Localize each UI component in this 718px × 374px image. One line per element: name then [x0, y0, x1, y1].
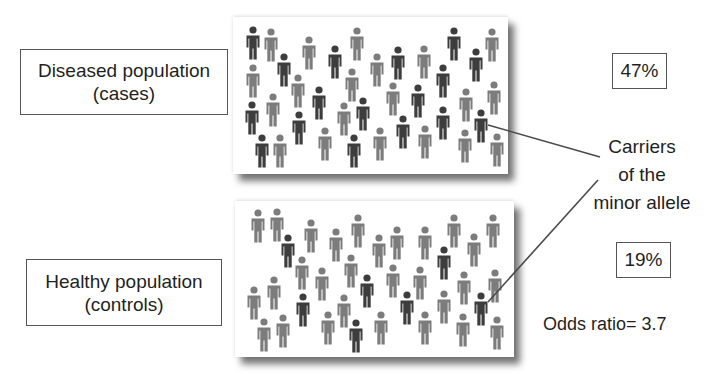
- controls-population-panel: [235, 201, 514, 357]
- cases-label: Diseased population (cases): [20, 49, 228, 115]
- carriers-annotation: Carriers of the minor allele: [578, 133, 706, 217]
- controls-label: Healthy population (controls): [26, 259, 222, 326]
- controls-carrier-percent: 19%: [616, 242, 671, 278]
- cases-carrier-percent: 47%: [612, 53, 667, 89]
- cases-label-title: Diseased population: [21, 59, 227, 82]
- controls-percent-value: 19%: [624, 249, 662, 271]
- carriers-line3: minor allele: [578, 189, 706, 217]
- cases-label-subtitle: (cases): [21, 82, 227, 105]
- controls-label-title: Healthy population: [27, 270, 221, 293]
- carriers-line2: of the: [578, 161, 706, 189]
- odds-ratio: Odds ratio= 3.7: [543, 314, 667, 335]
- carriers-line1: Carriers: [578, 133, 706, 161]
- cases-population-panel: [233, 17, 508, 174]
- controls-label-subtitle: (controls): [27, 293, 221, 316]
- cases-percent-value: 47%: [620, 60, 658, 82]
